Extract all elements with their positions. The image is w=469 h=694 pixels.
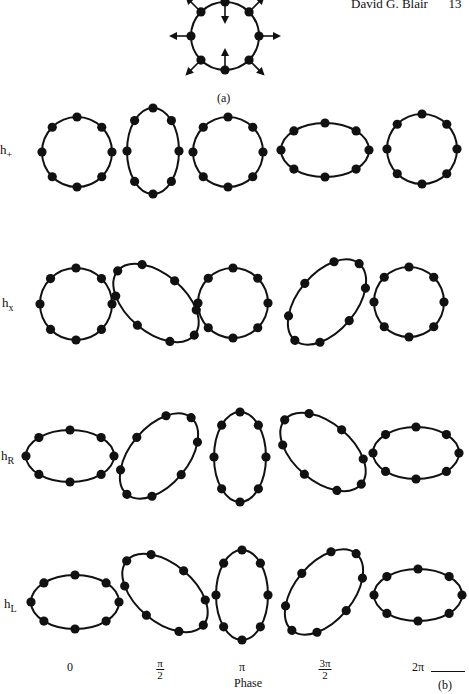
test-mass-dot bbox=[204, 323, 213, 332]
test-mass-dot bbox=[219, 559, 228, 568]
ring-phase-2 bbox=[188, 112, 267, 191]
ring-phase-2 bbox=[209, 407, 270, 506]
test-mass-dot bbox=[325, 545, 338, 558]
test-mass-dot bbox=[380, 322, 389, 331]
test-mass-dot bbox=[46, 325, 55, 334]
test-mass-dot bbox=[217, 421, 226, 430]
test-mass-dot bbox=[253, 274, 262, 283]
test-mass-dot bbox=[303, 407, 316, 420]
test-mass-dot bbox=[228, 263, 237, 272]
test-mass-dot bbox=[276, 439, 289, 452]
test-mass-dot bbox=[404, 262, 413, 271]
phase-label-1: π2 bbox=[156, 656, 164, 681]
test-mass-dot bbox=[380, 273, 389, 282]
ring-phase-4 bbox=[369, 262, 448, 341]
test-mass-dot bbox=[417, 179, 426, 188]
test-mass-dot bbox=[223, 112, 232, 121]
test-mass-dot bbox=[364, 145, 373, 154]
test-mass-dot bbox=[48, 123, 57, 132]
test-mass-dot bbox=[35, 299, 44, 308]
test-mass-dot bbox=[369, 590, 378, 599]
test-mass-dot bbox=[204, 274, 213, 283]
test-mass-dot bbox=[457, 590, 466, 599]
test-mass-dot bbox=[97, 325, 106, 334]
caption-rule bbox=[431, 671, 465, 672]
test-mass-dot bbox=[97, 172, 106, 181]
test-mass-dot bbox=[217, 484, 226, 493]
panel-b-caption: (b) bbox=[438, 678, 452, 693]
test-mass-dot bbox=[209, 452, 218, 461]
test-mass-dot bbox=[282, 309, 295, 322]
test-mass-dot bbox=[254, 421, 263, 430]
test-mass-dot bbox=[48, 172, 57, 181]
ring-phase-3 bbox=[263, 529, 385, 656]
test-mass-dot bbox=[276, 145, 285, 154]
page-number: 13 bbox=[448, 0, 461, 11]
test-mass-dot bbox=[223, 182, 232, 191]
test-mass-dot bbox=[261, 452, 270, 461]
test-mass-dot bbox=[256, 622, 265, 631]
ring-phase-4 bbox=[382, 109, 461, 188]
author-name: David G. Blair bbox=[351, 0, 428, 11]
test-mass-dot bbox=[413, 564, 422, 573]
test-mass-dot bbox=[442, 467, 451, 476]
panel-a-ring bbox=[171, 0, 279, 75]
test-mass-dot bbox=[237, 545, 246, 554]
test-mass-dot bbox=[382, 609, 391, 618]
test-mass-dot bbox=[70, 570, 79, 579]
test-mass-dot bbox=[263, 298, 272, 307]
test-mass-dot bbox=[369, 297, 378, 306]
test-mass-dot bbox=[248, 123, 257, 132]
test-mass-dot bbox=[254, 484, 263, 493]
test-mass-dot bbox=[359, 282, 372, 295]
test-mass-dot bbox=[352, 126, 361, 135]
test-mass-dot bbox=[311, 626, 324, 639]
test-mass-dot bbox=[356, 572, 369, 585]
test-mass-dot bbox=[39, 578, 48, 587]
force-arrow-icon bbox=[187, 0, 201, 12]
test-mass-dot bbox=[439, 297, 448, 306]
ring-phase-1 bbox=[122, 103, 183, 198]
test-mass-dot bbox=[97, 274, 106, 283]
phase-label-0: 0 bbox=[67, 660, 73, 675]
test-mass-dot bbox=[320, 118, 329, 127]
test-mass-dot bbox=[174, 146, 183, 155]
test-mass-dot bbox=[417, 109, 426, 118]
gravitational-wave-polarization-diagram bbox=[0, 0, 469, 694]
ring-phase-0 bbox=[35, 263, 116, 344]
row-label-hx: hx bbox=[2, 295, 14, 313]
test-mass-dot bbox=[193, 298, 202, 307]
test-mass-dot bbox=[107, 299, 116, 308]
test-mass-dot bbox=[429, 273, 438, 282]
test-mass-dot bbox=[102, 578, 111, 587]
phase-label-4: 2π bbox=[412, 660, 424, 675]
test-mass-dot bbox=[114, 597, 123, 606]
test-mass-dot bbox=[289, 164, 298, 173]
test-mass-dot bbox=[228, 333, 237, 342]
test-mass-dot bbox=[34, 470, 43, 479]
test-mass-dot bbox=[381, 430, 390, 439]
test-mass-dot bbox=[65, 477, 74, 486]
test-mass-dot bbox=[148, 103, 157, 112]
test-mass-dot bbox=[130, 177, 139, 186]
test-mass-dot bbox=[429, 322, 438, 331]
panel-a-caption: (a) bbox=[217, 91, 230, 106]
test-mass-dot bbox=[442, 120, 451, 129]
test-mass-dot bbox=[188, 147, 197, 156]
test-mass-dot bbox=[289, 126, 298, 135]
polarization-row-hx bbox=[35, 239, 448, 366]
running-header: David G. Blair 13 bbox=[351, 0, 461, 12]
test-mass-dot bbox=[167, 116, 176, 125]
test-mass-dot bbox=[102, 616, 111, 625]
test-mass-dot bbox=[160, 409, 173, 422]
test-mass-dot bbox=[199, 594, 212, 607]
test-mass-dot bbox=[413, 616, 422, 625]
test-mass-dot bbox=[167, 177, 176, 186]
test-mass-dot bbox=[65, 425, 74, 434]
test-mass-dot bbox=[70, 624, 79, 633]
test-mass-dot bbox=[235, 497, 244, 506]
test-mass-dot bbox=[219, 622, 228, 631]
test-mass-dot bbox=[26, 597, 35, 606]
test-mass-dot bbox=[445, 609, 454, 618]
test-mass-dot bbox=[368, 448, 377, 457]
